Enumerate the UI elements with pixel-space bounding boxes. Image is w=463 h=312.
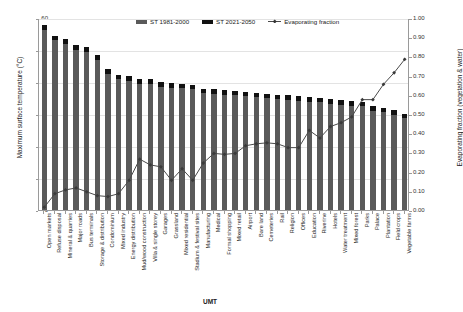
x-axis-tick-label: Religion bbox=[289, 213, 295, 233]
legend-label-future: ST 2021-2050 bbox=[216, 18, 255, 25]
x-axis-tick-label: Palace bbox=[374, 213, 380, 230]
x-axis-tick-mark bbox=[202, 211, 203, 214]
x-axis-tick-label: Manufacturing bbox=[205, 213, 211, 248]
x-axis-tick-label: Medical bbox=[215, 213, 221, 232]
legend-item-evaporating-fraction: Evaporating fraction bbox=[268, 18, 339, 25]
evaporating-fraction-polyline bbox=[44, 59, 404, 207]
x-axis-tick-labels: Open marketsRefuse disposalMineral & qua… bbox=[38, 213, 409, 297]
x-axis-tick-mark bbox=[139, 211, 140, 214]
x-axis-tick-label: Riverine bbox=[321, 213, 327, 234]
evaporating-fraction-marker bbox=[148, 163, 152, 167]
evaporating-fraction-marker bbox=[339, 121, 343, 125]
x-axis-tick-mark bbox=[330, 211, 331, 214]
x-axis-tick-label: Villa & single storey bbox=[152, 213, 158, 262]
x-axis-tick-label: Storage & distribution bbox=[99, 213, 105, 266]
x-axis-tick-label: Offices bbox=[300, 213, 306, 230]
y-axis-right-tick-label: 0.80 bbox=[413, 53, 453, 59]
x-axis-title: UMT bbox=[0, 298, 420, 305]
x-axis-tick-mark bbox=[383, 211, 384, 214]
x-axis-tick-label: Plantation bbox=[385, 213, 391, 238]
evaporating-fraction-marker bbox=[276, 142, 280, 146]
y-axis-right-tick-label: 0.20 bbox=[413, 169, 453, 175]
plot-area bbox=[38, 19, 409, 211]
x-axis-tick-label: Mineral & quarries bbox=[67, 213, 73, 258]
x-axis-tick-mark bbox=[128, 211, 129, 214]
y-axis-right-title: Evaporating fraction (vegetation & water… bbox=[456, 13, 463, 203]
legend-swatch-line-icon bbox=[268, 19, 281, 24]
y-axis-right-tick-label: 0.40 bbox=[413, 130, 453, 136]
x-axis-tick-label: Formal shopping bbox=[226, 213, 232, 255]
x-axis-tick-mark bbox=[372, 211, 373, 214]
x-axis-tick-mark bbox=[351, 211, 352, 214]
x-axis-tick-label: Hotels bbox=[332, 213, 338, 229]
x-axis-tick-label: Open markets bbox=[46, 213, 52, 248]
x-axis-tick-mark bbox=[118, 211, 119, 214]
y-axis-right-tick-label: 0.30 bbox=[413, 149, 453, 155]
y-axis-left-title: Maximum surface temperature (°C) bbox=[16, 43, 23, 173]
x-axis-tick-label: Garages bbox=[162, 213, 168, 234]
y-axis-right-tick-label: 0.90 bbox=[413, 34, 453, 40]
x-axis-tick-mark bbox=[340, 211, 341, 214]
x-axis-tick-label: Rail bbox=[279, 213, 285, 223]
chart-legend: ST 1981-2000 ST 2021-2050 Evaporating fr… bbox=[136, 18, 339, 25]
x-axis-tick-mark bbox=[160, 211, 161, 214]
y-axis-right-tick-label: 0.70 bbox=[413, 73, 453, 79]
y-axis-right-tick-label: 0.00 bbox=[413, 207, 453, 213]
x-axis-tick-label: Bare land bbox=[258, 213, 264, 237]
evaporating-fraction-marker bbox=[265, 141, 269, 145]
x-axis-tick-mark bbox=[96, 211, 97, 214]
evaporating-fraction-marker bbox=[223, 152, 227, 156]
x-axis-tick-mark bbox=[107, 211, 108, 214]
x-axis-tick-mark bbox=[361, 211, 362, 214]
legend-swatch-past-icon bbox=[136, 20, 147, 24]
x-axis-tick-mark bbox=[266, 211, 267, 214]
x-axis-tick-label: Mud/wood construction bbox=[141, 213, 147, 271]
y-axis-right-tick-label: 0.60 bbox=[413, 92, 453, 98]
evaporating-fraction-marker bbox=[95, 194, 99, 198]
x-axis-tick-label: Grassland bbox=[173, 213, 179, 239]
y-axis-right-tick-label: 0.50 bbox=[413, 111, 453, 117]
y-axis-right-tick-label: 0.10 bbox=[413, 188, 453, 194]
evaporating-fraction-marker bbox=[85, 190, 89, 194]
x-axis-tick-mark bbox=[255, 211, 256, 214]
x-axis-tick-mark bbox=[65, 211, 66, 214]
x-axis-tick-mark bbox=[234, 211, 235, 214]
x-axis-tick-mark bbox=[43, 211, 44, 214]
y-axis-right-tick-label: 1.00 bbox=[413, 15, 453, 21]
x-axis-tick-label: Cemeteries bbox=[268, 213, 274, 242]
x-axis-tick-label: Condominium bbox=[109, 213, 115, 248]
x-axis-tick-label: Airport bbox=[247, 213, 253, 229]
x-axis-tick-label: Parks bbox=[364, 213, 370, 227]
evaporating-fraction-marker bbox=[286, 146, 290, 150]
x-axis-tick-mark bbox=[308, 211, 309, 214]
legend-label-line: Evaporating fraction bbox=[284, 18, 339, 25]
y-axis-left-tick-mark bbox=[36, 211, 39, 212]
x-axis-tick-mark bbox=[287, 211, 288, 214]
x-axis-tick-label: Mixed residential bbox=[183, 213, 189, 255]
x-axis-tick-label: Education bbox=[311, 213, 317, 238]
x-axis-tick-label: Major roads bbox=[77, 213, 83, 243]
x-axis-tick-mark bbox=[319, 211, 320, 214]
x-axis-tick-mark bbox=[245, 211, 246, 214]
x-axis-tick-label: Stadium & festival sites bbox=[194, 213, 200, 271]
x-axis-tick-label: Mixed forest bbox=[353, 213, 359, 243]
x-axis-tick-mark bbox=[75, 211, 76, 214]
x-axis-tick-label: Vegetable farms bbox=[406, 213, 412, 253]
x-axis-tick-mark bbox=[192, 211, 193, 214]
x-axis-tick-label: Mixed retail bbox=[236, 213, 242, 242]
x-axis-tick-mark bbox=[393, 211, 394, 214]
x-axis-tick-mark bbox=[181, 211, 182, 214]
evaporating-fraction-marker bbox=[254, 142, 258, 146]
legend-item-st-1981-2000: ST 1981-2000 bbox=[136, 18, 189, 25]
x-axis-tick-mark bbox=[277, 211, 278, 214]
x-axis-tick-mark bbox=[149, 211, 150, 214]
x-axis-tick-label: Refuse disposal bbox=[56, 213, 62, 253]
x-axis-tick-mark bbox=[171, 211, 172, 214]
evaporating-fraction-marker bbox=[106, 195, 110, 199]
legend-label-past: ST 1981-2000 bbox=[150, 18, 189, 25]
x-axis-tick-label: Field crops bbox=[395, 213, 401, 240]
evaporating-fraction-line bbox=[39, 19, 410, 211]
evaporating-fraction-marker bbox=[64, 188, 68, 192]
x-axis-tick-mark bbox=[213, 211, 214, 214]
